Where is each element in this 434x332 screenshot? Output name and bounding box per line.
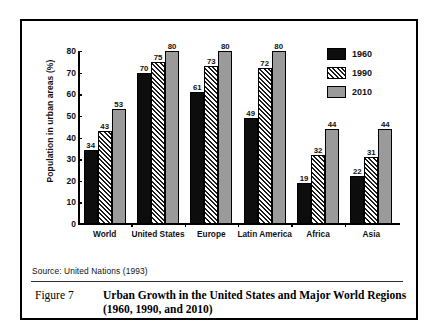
y-tick-mark	[78, 94, 82, 95]
x-category-label: World	[93, 229, 116, 239]
bar-value-label: 44	[328, 120, 337, 129]
bar-1990: 75	[151, 62, 165, 224]
bar-2010: 80	[165, 51, 179, 224]
x-category-label: Africa	[306, 229, 330, 239]
y-tick-label: 50	[56, 111, 76, 121]
chart-legend: 1960 1990 2010	[327, 47, 407, 104]
figure-caption: Figure 7 Urban Growth in the United Stat…	[31, 289, 411, 316]
legend-item-2010: 2010	[327, 85, 407, 98]
bar-value-label: 80	[221, 42, 230, 51]
y-axis-tick-labels: 01020304050607080	[52, 51, 76, 224]
bar-value-label: 70	[140, 64, 149, 73]
bar-value-label: 53	[114, 100, 123, 109]
legend-label-1990: 1990	[352, 68, 372, 78]
bar-1990: 31	[364, 157, 378, 224]
y-tick-label: 60	[56, 89, 76, 99]
bar-group-bars: 617380	[185, 51, 238, 224]
bar-slot: 80	[218, 51, 232, 224]
bar-1990: 72	[258, 68, 272, 224]
x-category-label: Europe	[197, 229, 226, 239]
bar-1990: 32	[311, 155, 325, 224]
y-tick-mark	[78, 138, 82, 139]
bar-slot: 80	[272, 51, 286, 224]
x-tick-mark	[345, 223, 346, 227]
bar-value-label: 31	[367, 148, 376, 157]
bar-2010: 80	[272, 51, 286, 224]
y-tick-label: 20	[56, 176, 76, 186]
bar-value-label: 19	[300, 174, 309, 183]
figure-frame: Population in urban areas (%) 0102030405…	[20, 19, 418, 320]
bar-1990: 73	[204, 66, 218, 224]
y-tick-mark	[78, 181, 82, 182]
y-tick-mark	[78, 159, 82, 160]
bar-1960: 61	[190, 92, 204, 224]
y-tick-label: 0	[56, 219, 76, 229]
legend-swatch-2010-icon	[327, 86, 346, 98]
bar-group-bars: 497280	[238, 51, 291, 224]
bar-1960: 49	[244, 118, 258, 224]
legend-label-1960: 1960	[352, 49, 372, 59]
x-tick-mark	[238, 223, 239, 227]
bar-2010: 80	[218, 51, 232, 224]
x-category-label: United States	[131, 229, 184, 239]
bar-1960: 70	[137, 73, 151, 224]
y-tick-mark	[78, 202, 82, 203]
bar-slot: 34	[84, 51, 98, 224]
y-tick-label: 10	[56, 197, 76, 207]
y-tick-label: 30	[56, 154, 76, 164]
bar-value-label: 61	[193, 83, 202, 92]
bar-slot: 70	[137, 51, 151, 224]
bar-slot: 61	[190, 51, 204, 224]
bar-2010: 44	[378, 129, 392, 224]
x-tick-mark	[131, 223, 132, 227]
figure-number: Figure 7	[31, 289, 103, 301]
bar-value-label: 44	[381, 120, 390, 129]
bar-1960: 19	[297, 183, 311, 224]
bar-slot: 72	[258, 51, 272, 224]
bar-slot: 80	[165, 51, 179, 224]
y-tick-mark	[78, 73, 82, 74]
y-tick-mark	[78, 51, 82, 52]
bar-group: 344353	[78, 51, 131, 224]
bar-slot: 73	[204, 51, 218, 224]
source-note: Source: United Nations (1993)	[32, 266, 148, 276]
bar-slot: 75	[151, 51, 165, 224]
bar-2010: 44	[325, 129, 339, 224]
y-tick-label: 80	[56, 46, 76, 56]
y-tick-label: 70	[56, 68, 76, 78]
bar-slot: 53	[112, 51, 126, 224]
legend-label-2010: 2010	[352, 87, 372, 97]
x-tick-mark	[185, 223, 186, 227]
bar-value-label: 73	[207, 57, 216, 66]
legend-swatch-1990-icon	[327, 67, 346, 79]
bar-1990: 43	[98, 131, 112, 224]
bar-slot: 43	[98, 51, 112, 224]
x-category-label: Latin America	[237, 229, 292, 239]
bar-value-label: 34	[86, 141, 95, 150]
bar-value-label: 75	[154, 53, 163, 62]
bar-value-label: 72	[260, 59, 269, 68]
bar-value-label: 22	[353, 167, 362, 176]
chart-plot-region: Population in urban areas (%) 0102030405…	[22, 21, 415, 261]
bar-slot: 19	[297, 51, 311, 224]
bar-value-label: 80	[168, 42, 177, 51]
bar-group: 617380	[185, 51, 238, 224]
y-tick-mark	[78, 116, 82, 117]
x-category-label: Asia	[363, 229, 381, 239]
bar-value-label: 43	[100, 122, 109, 131]
bar-group: 497280	[238, 51, 291, 224]
bar-value-label: 49	[246, 109, 255, 118]
legend-swatch-1960-icon	[327, 48, 346, 60]
bar-1960: 34	[84, 150, 98, 224]
source-divider	[31, 281, 403, 282]
y-tick-label: 40	[56, 133, 76, 143]
bar-2010: 53	[112, 109, 126, 224]
bar-slot: 49	[244, 51, 258, 224]
legend-item-1960: 1960	[327, 47, 407, 60]
legend-item-1990: 1990	[327, 66, 407, 79]
bar-value-label: 32	[314, 146, 323, 155]
bar-slot: 32	[311, 51, 325, 224]
bar-group-bars: 707580	[131, 51, 184, 224]
bar-group: 707580	[131, 51, 184, 224]
bar-value-label: 80	[274, 42, 283, 51]
